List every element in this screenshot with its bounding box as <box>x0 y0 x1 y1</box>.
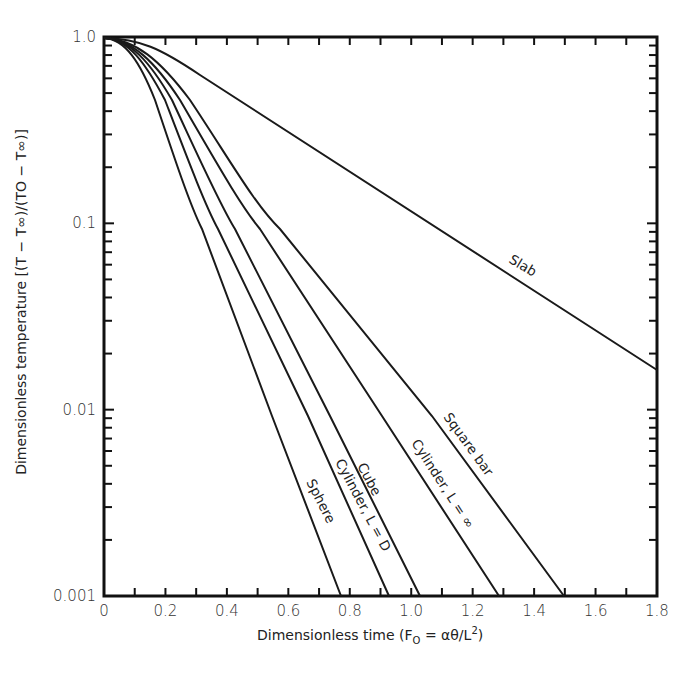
x-tick-label: 1.2 <box>461 602 485 620</box>
x-tick-label: 1.8 <box>645 602 669 620</box>
curves <box>104 38 657 596</box>
y-tick-label: 0.001 <box>53 587 96 605</box>
x-tick-label: 1.6 <box>584 602 608 620</box>
curve-cylinder-d <box>104 38 389 596</box>
x-tick-labels: 00.20.40.60.81.01.21.41.61.8 <box>99 602 669 620</box>
label-sphere: Sphere <box>303 476 339 526</box>
chart: Slab Square bar Cylinder, L = ∞ Cube Cyl… <box>0 0 693 674</box>
x-tick-label: 0.8 <box>338 602 362 620</box>
y-axis-title: Dimensionless temperature [(T − T∞)/(TO … <box>13 129 29 475</box>
y-tick-labels: 1.00.10.010.001 <box>53 28 96 605</box>
x-tick-label: 0.6 <box>276 602 300 620</box>
y-tick-label: 1.0 <box>72 28 96 46</box>
curve-slab <box>104 38 657 370</box>
y-tick-label: 0.01 <box>63 401 96 419</box>
x-tick-label: 1.0 <box>399 602 423 620</box>
curve-sphere <box>104 38 341 596</box>
x-tick-label: 0.2 <box>154 602 178 620</box>
x-tick-label: 0.4 <box>215 602 239 620</box>
x-tick-label: 1.4 <box>522 602 546 620</box>
label-square-bar: Square bar <box>441 409 498 479</box>
y-tick-label: 0.1 <box>72 214 96 232</box>
x-tick-label: 0 <box>99 602 109 620</box>
x-axis-title: Dimensionless time (FO = αθ/L2) <box>257 625 483 646</box>
